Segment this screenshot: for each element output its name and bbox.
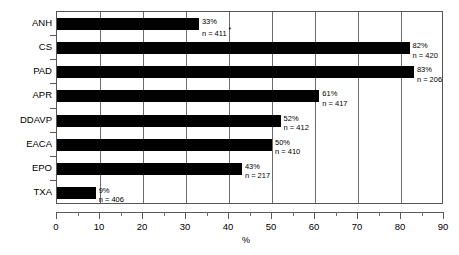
bar-percent-label: 9% [99,186,124,195]
bar [57,42,410,54]
x-axis-tick-label: 70 [352,221,363,232]
bar-n-label: n = 206 [417,75,442,84]
x-axis-minor-tick [164,212,165,216]
bar [57,187,96,199]
y-axis-label-pad: PAD [33,66,52,76]
bar-percent-label: 82% [413,41,438,50]
x-axis-minor-tick [250,212,251,216]
x-axis-minor-tick [379,212,380,216]
y-axis-label-txa: TXA [34,187,52,197]
plot-area: 33%n = 411 *82%n = 42083%n = 20661%n = 4… [56,11,443,204]
bar [57,163,242,175]
x-axis-tick-label: 40 [223,221,234,232]
x-axis-minor-tick [422,212,423,216]
x-axis-major-tick [400,212,401,219]
x-axis-tick-label: 80 [395,221,406,232]
y-axis-category-labels: ANHCSPADAPRDDAVPEACAEPOTXA [0,0,52,255]
x-axis-tick-label: 90 [438,221,449,232]
x-axis-title-text: % [242,235,250,245]
x-axis-tick-label: 0 [53,221,58,232]
bar-value-label: 9%n = 406 [99,186,124,205]
x-axis-major-tick [443,212,444,219]
bar-value-label: 50%n = 410 [275,138,300,157]
x-axis-minor-tick [336,212,337,216]
x-axis-tick-label: 50 [266,221,277,232]
bar [57,18,199,30]
x-axis-major-tick [357,212,358,219]
significance-asterisk: * [227,26,232,33]
x-axis-tick-label: 60 [309,221,320,232]
bar-value-label: 52%n = 412 [284,114,309,133]
y-axis-tick [50,156,56,157]
x-axis-major-tick [228,212,229,219]
bar [57,115,281,127]
bar-percent-label: 61% [322,89,347,98]
gridline [272,12,273,203]
bar-percent-label: 50% [275,138,300,147]
bar-n-label: n = 411 * [202,26,231,38]
x-axis-minor-tick [207,212,208,216]
y-axis-tick [50,59,56,60]
x-axis-major-tick [142,212,143,219]
x-axis-minor-tick [121,212,122,216]
x-axis-minor-tick [78,212,79,216]
bar-percent-label: 33% [202,17,231,26]
y-axis-label-cs: CS [39,42,52,52]
x-axis-major-tick [56,212,57,219]
bar-n-label: n = 420 [413,51,438,60]
gridline [315,12,316,203]
bar-value-label: 33%n = 411 * [202,17,231,38]
bar-n-label: n = 417 [322,99,347,108]
bar-value-label: 83%n = 206 [417,65,442,84]
y-axis-label-anh: ANH [32,18,52,28]
y-axis-label-epo: EPO [32,163,52,173]
bar-percent-label: 83% [417,65,442,74]
y-axis-tick [50,35,56,36]
x-axis-minor-tick [293,212,294,216]
bar [57,66,414,78]
bar-percent-label: 43% [245,162,270,171]
bar-percent-label: 52% [284,114,309,123]
x-axis-tick-label: 30 [180,221,191,232]
bar [57,90,319,102]
bar-value-label: 82%n = 420 [413,41,438,60]
y-axis-tick [50,83,56,84]
bar-n-label: n = 406 [99,195,124,204]
bar-chart: ANHCSPADAPRDDAVPEACAEPOTXA 33%n = 411 *8… [0,0,459,255]
gridline [401,12,402,203]
y-axis-label-apr: APR [32,90,52,100]
gridline [358,12,359,203]
x-axis-title: % [0,235,459,245]
x-axis-major-tick [99,212,100,219]
y-axis-tick [50,180,56,181]
x-axis-major-tick [185,212,186,219]
x-axis-tick-label: 10 [94,221,105,232]
bar-n-label: n = 217 [245,171,270,180]
y-axis-label-ddavp: DDAVP [20,115,52,125]
y-axis-tick [50,132,56,133]
bar-n-label: n = 412 [284,123,309,132]
bar-value-label: 43%n = 217 [245,162,270,181]
y-axis-tick [50,108,56,109]
bar [57,139,272,151]
y-axis-label-eaca: EACA [26,139,52,149]
bar-value-label: 61%n = 417 [322,89,347,108]
x-axis-major-tick [314,212,315,219]
x-axis-major-tick [271,212,272,219]
bar-n-label: n = 410 [275,147,300,156]
x-axis-tick-label: 20 [137,221,148,232]
